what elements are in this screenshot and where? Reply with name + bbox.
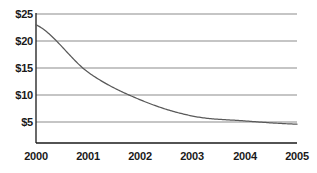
x-axis-tick-label: 2005 bbox=[277, 150, 317, 162]
data-series-line bbox=[36, 25, 297, 124]
axes bbox=[36, 13, 297, 143]
gridlines bbox=[36, 14, 297, 122]
x-axis-tick-label: 2002 bbox=[120, 150, 160, 162]
line-chart: $25 $20 $15 $10 $5 2000 2001 2002 2003 2… bbox=[0, 0, 317, 173]
x-axis-tick-label: 2004 bbox=[225, 150, 265, 162]
x-axis-tick-label: 2001 bbox=[68, 150, 108, 162]
x-axis-tick-label: 2000 bbox=[16, 150, 56, 162]
plot-area bbox=[0, 0, 317, 173]
x-axis-tick-label: 2003 bbox=[172, 150, 212, 162]
